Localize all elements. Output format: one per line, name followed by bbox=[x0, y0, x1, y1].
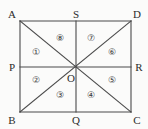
point-label-s: S bbox=[73, 9, 79, 20]
region-label-4: ④ bbox=[87, 91, 95, 100]
region-label-7: ⑦ bbox=[87, 34, 95, 43]
region-label-5: ⑤ bbox=[108, 76, 116, 85]
segments-group bbox=[20, 21, 131, 112]
point-label-q: Q bbox=[72, 115, 80, 126]
region-label-2: ② bbox=[32, 76, 40, 85]
geometry-figure: ASDPORBQC ①②③④⑤⑥⑦⑧ bbox=[0, 0, 148, 129]
point-label-a: A bbox=[8, 9, 16, 20]
point-label-o: O bbox=[67, 73, 75, 84]
point-label-p: P bbox=[9, 62, 15, 73]
point-label-r: R bbox=[135, 62, 142, 73]
point-label-c: C bbox=[133, 115, 140, 126]
region-label-6: ⑥ bbox=[108, 48, 116, 57]
point-label-b: B bbox=[8, 115, 15, 126]
region-label-3: ③ bbox=[56, 91, 64, 100]
region-label-8: ⑧ bbox=[56, 34, 64, 43]
point-label-d: D bbox=[133, 9, 141, 20]
region-label-1: ① bbox=[32, 48, 40, 57]
